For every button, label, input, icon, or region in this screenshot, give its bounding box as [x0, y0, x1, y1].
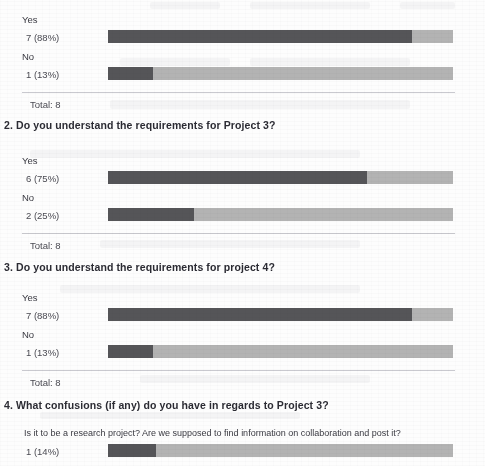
question-heading-4: 4. What confusions (if any) do you have …	[4, 399, 329, 411]
option-label-no: No	[22, 192, 34, 203]
question-heading-2: 2. Do you understand the requirements fo…	[4, 119, 276, 131]
option-bar-fill-no	[108, 67, 153, 80]
option-bar-fill-yes	[108, 308, 412, 321]
total-label: Total: 8	[30, 240, 61, 251]
option-label-yes: Yes	[22, 155, 38, 166]
option-bar-track-yes	[108, 30, 453, 43]
option-count-no: 2 (25%)	[26, 210, 59, 221]
option-count-no: 1 (13%)	[26, 69, 59, 80]
option-count-yes: 7 (88%)	[26, 310, 59, 321]
option-count-yes: 6 (75%)	[26, 173, 59, 184]
survey-results-page: Yes 7 (88%) No 1 (13%) Total: 8 2. Do yo…	[0, 0, 485, 466]
section-divider	[22, 233, 455, 234]
free-text-answer: Is it to be a research project? Are we s…	[24, 428, 401, 438]
option-label-yes: Yes	[22, 292, 38, 303]
option-label-no: No	[22, 329, 34, 340]
option-count-answer: 1 (14%)	[26, 446, 59, 457]
option-label-yes: Yes	[22, 14, 38, 25]
option-bar-fill-yes	[108, 30, 412, 43]
total-label: Total: 8	[30, 377, 61, 388]
section-divider	[22, 92, 455, 93]
option-bar-fill-no	[108, 345, 153, 358]
option-bar-fill-answer	[108, 444, 156, 457]
option-bar-track-no	[108, 208, 453, 221]
option-bar-track-yes	[108, 308, 453, 321]
section-divider	[22, 370, 455, 371]
total-label: Total: 8	[30, 99, 61, 110]
option-bar-track-yes	[108, 171, 453, 184]
option-bar-track-no	[108, 67, 453, 80]
option-count-no: 1 (13%)	[26, 347, 59, 358]
option-bar-fill-no	[108, 208, 194, 221]
option-bar-track-answer	[108, 444, 453, 457]
question-heading-3: 3. Do you understand the requirements fo…	[4, 261, 275, 273]
option-count-yes: 7 (88%)	[26, 32, 59, 43]
option-bar-track-no	[108, 345, 453, 358]
option-bar-fill-yes	[108, 171, 367, 184]
option-label-no: No	[22, 51, 34, 62]
